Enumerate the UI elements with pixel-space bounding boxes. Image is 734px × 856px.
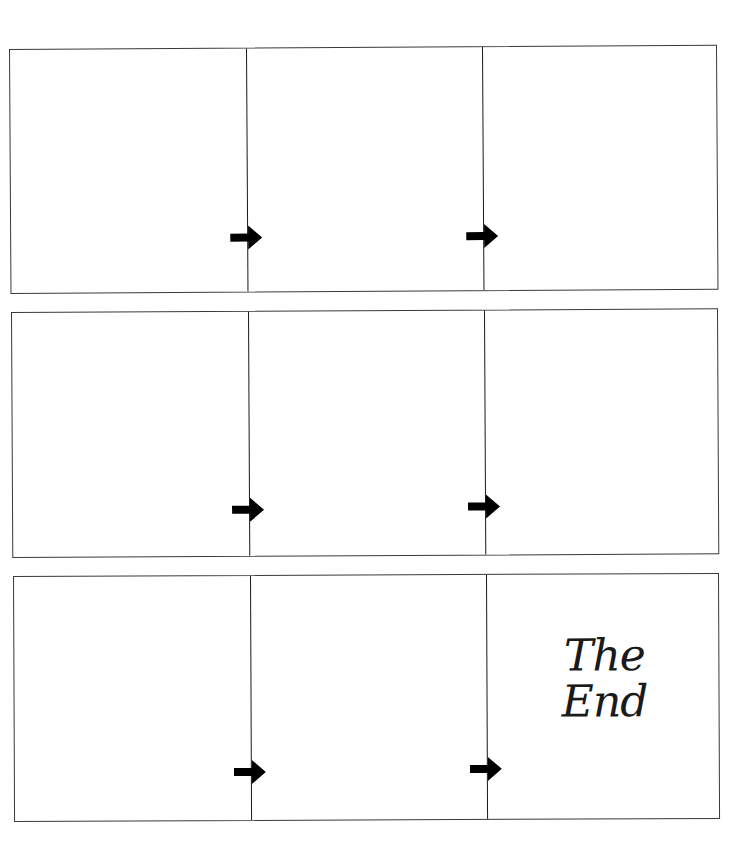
strip-1-panel-1 — [10, 49, 247, 293]
strip-3-panel-2 — [250, 575, 487, 820]
strip-2-panel-2 — [248, 311, 485, 556]
arrow-right-icon — [470, 757, 502, 781]
arrow-right-icon — [468, 494, 500, 518]
strip-1-panel-2 — [246, 47, 483, 291]
comic-strip-3: The End — [13, 573, 720, 822]
the-end-line-1: The — [544, 632, 664, 679]
the-end-title: The End — [544, 632, 664, 725]
strip-3-panel-1 — [14, 576, 251, 821]
strip-3-panel-3: The End — [486, 574, 721, 819]
strip-1-panel-3 — [482, 46, 719, 290]
strip-2-panel-3 — [484, 309, 720, 554]
arrow-right-icon — [234, 760, 266, 784]
comic-strip-1 — [9, 45, 718, 294]
arrow-right-icon — [230, 225, 262, 249]
arrow-right-icon — [466, 224, 498, 248]
comic-strip-2 — [11, 308, 719, 558]
strip-2-panel-1 — [12, 312, 249, 557]
arrow-right-icon — [232, 498, 264, 522]
the-end-line-2: End — [544, 678, 664, 725]
